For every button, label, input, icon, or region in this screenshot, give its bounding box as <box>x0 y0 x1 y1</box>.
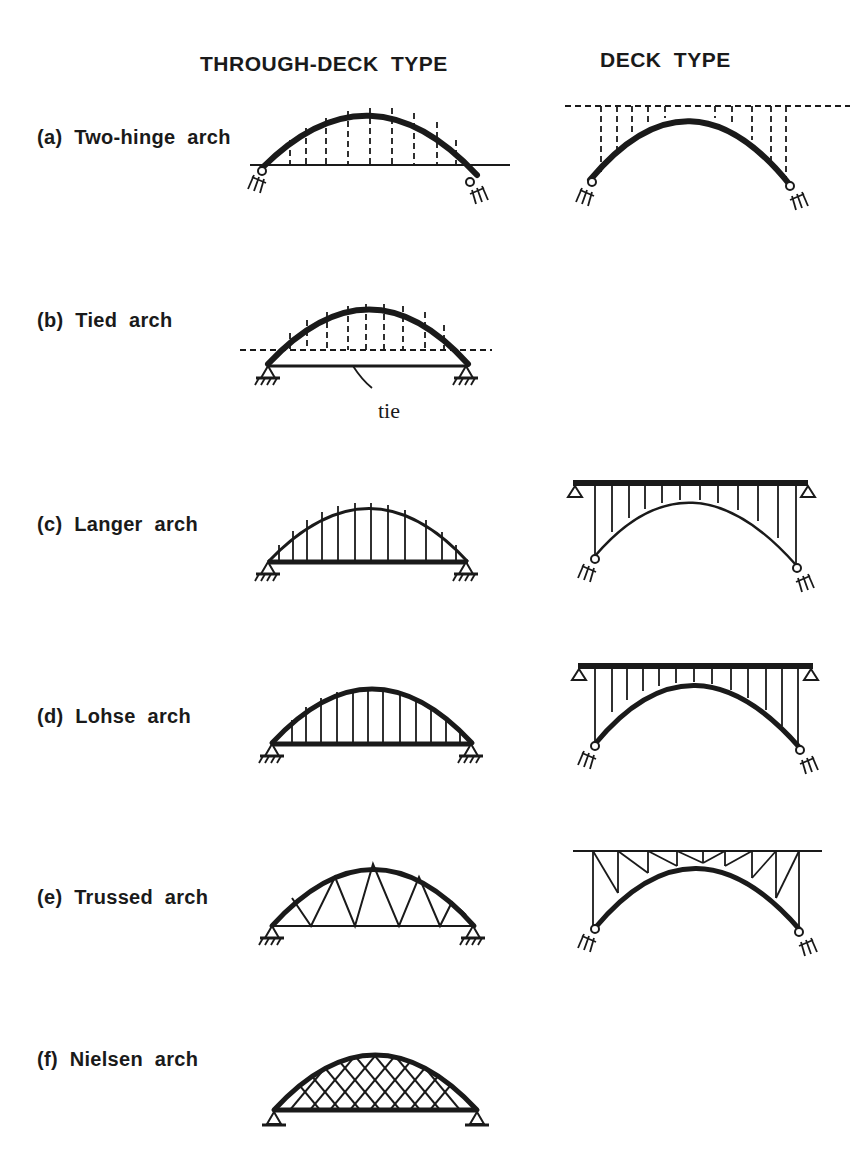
arch-diagrams <box>0 0 858 1163</box>
diagram-b-through-deck <box>240 304 492 388</box>
diagram-d-deck <box>572 666 818 774</box>
diagram-d-through-deck <box>259 688 483 763</box>
diagram-f-through-deck <box>230 1020 520 1125</box>
diagram-c-deck <box>568 483 815 592</box>
diagram-a-through-deck <box>248 108 510 204</box>
diagram-e-through-deck <box>259 864 485 945</box>
diagram-a-deck <box>565 106 850 210</box>
diagram-e-deck <box>573 851 822 956</box>
diagram-c-through-deck <box>255 503 478 581</box>
